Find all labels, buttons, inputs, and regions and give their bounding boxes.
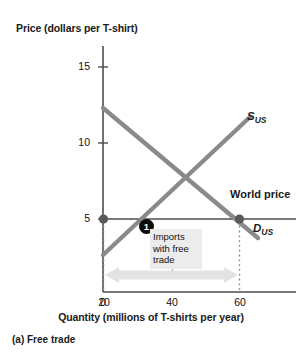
imports-arrow — [105, 267, 238, 283]
supply-curve-label: SUS — [247, 110, 266, 125]
demand-label-sub: US — [261, 227, 273, 237]
x-tick-label-40: 40 — [160, 296, 184, 308]
y-tick-label-10: 10 — [66, 136, 90, 148]
x-axis-title: Quantity (millions of T-shirts per year) — [0, 311, 302, 323]
marker-quantity-20 — [99, 214, 108, 223]
world-price-label: World price — [230, 188, 296, 201]
demand-curve-label: DUS — [253, 222, 273, 237]
x-tick-label-60: 60 — [228, 296, 252, 308]
supply-label-text: S — [247, 110, 255, 122]
y-tick-label-5: 5 — [66, 212, 90, 224]
x-tick-label-20: 20 — [92, 296, 116, 308]
imports-note: Imports with free trade — [150, 229, 202, 269]
panel-caption: (a) Free trade — [12, 334, 75, 345]
chart-plot-area — [0, 0, 302, 354]
marker-quantity-60 — [235, 214, 244, 223]
y-tick-label-15: 15 — [66, 60, 90, 72]
supply-label-sub: US — [255, 115, 267, 125]
figure-free-trade: Price (dollars per T-shirt) 15 10 — [0, 0, 302, 354]
